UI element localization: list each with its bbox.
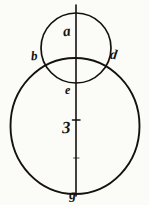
large-circle xyxy=(11,58,140,194)
label-point-b: b xyxy=(31,49,38,62)
geometric-figure: a b d e 3 g xyxy=(0,0,149,205)
label-point-z: 3 xyxy=(62,119,71,136)
figure-drawing-canvas xyxy=(0,0,149,205)
label-point-g: g xyxy=(69,188,77,202)
label-point-a: a xyxy=(62,24,71,40)
label-point-e: e xyxy=(65,84,70,96)
